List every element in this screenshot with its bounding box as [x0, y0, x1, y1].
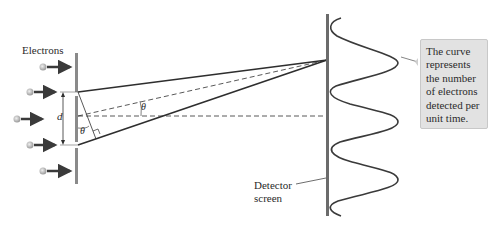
callout-line: detected per: [426, 99, 482, 112]
electrons-label: Electrons: [22, 44, 64, 57]
angle-label-right: θ: [141, 100, 146, 113]
screen-label: screen: [254, 192, 282, 205]
rays: [78, 60, 327, 145]
callout-line: unit time.: [426, 112, 482, 125]
interference-curve: [330, 18, 398, 216]
detector-screen: [326, 14, 329, 216]
detector-label: Detector: [254, 179, 292, 192]
callout-line: represents: [426, 58, 482, 71]
slit-barrier: [75, 53, 78, 184]
callout-line: the number: [426, 72, 482, 85]
callout-box: The curve represents the number of elect…: [420, 39, 488, 129]
callout-line: The curve: [426, 45, 482, 58]
slit-separation-label: d: [57, 110, 63, 123]
angle-label-left: θ: [80, 124, 85, 137]
callout-line: of electrons: [426, 85, 482, 98]
